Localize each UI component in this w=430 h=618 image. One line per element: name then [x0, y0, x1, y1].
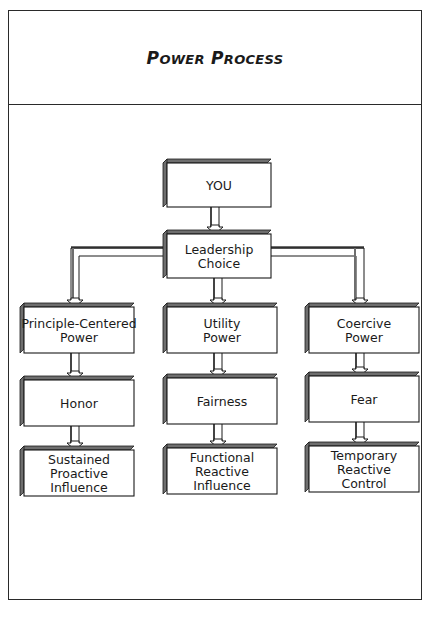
node-principle-label-line: Principle-Centered	[21, 316, 136, 331]
node-functional-label-line: Influence	[193, 478, 251, 493]
node-leadership-label-line: Leadership	[185, 242, 254, 257]
node-leadership: LeadershipChoice	[163, 230, 271, 278]
box-side-face	[305, 303, 309, 353]
box-top-face	[163, 159, 271, 163]
box-side-face	[20, 446, 24, 496]
node-sustained: SustainedProactiveInfluence	[20, 446, 134, 496]
node-leadership-label-line: Choice	[198, 256, 241, 271]
node-functional-label-line: Functional	[190, 450, 254, 465]
node-sustained-label-line: Influence	[50, 480, 108, 495]
box-top-face	[20, 376, 134, 380]
node-principle-label-line: Power	[60, 330, 99, 345]
node-utility-label-line: Power	[203, 330, 242, 345]
node-temporary-label-line: Control	[341, 476, 386, 491]
box-side-face	[163, 230, 167, 278]
box-top-face	[163, 374, 277, 378]
node-honor: Honor	[20, 376, 134, 426]
node-honor-label-line: Honor	[60, 396, 99, 411]
box-top-face	[20, 303, 134, 307]
box-top-face	[305, 303, 419, 307]
box-top-face	[163, 230, 271, 234]
node-you-label-line: YOU	[205, 178, 232, 193]
box-side-face	[163, 444, 167, 494]
node-sustained-label-line: Proactive	[50, 466, 108, 481]
box-side-face	[163, 303, 167, 353]
node-functional-label-line: Reactive	[195, 464, 249, 479]
box-side-face	[305, 442, 309, 492]
node-coercive-label-line: Power	[345, 330, 384, 345]
box-side-face	[305, 372, 309, 422]
node-temporary-label-line: Temporary	[330, 448, 398, 463]
edge-leadership-to-principle	[67, 246, 163, 307]
box-side-face	[163, 374, 167, 424]
node-you: YOU	[163, 159, 271, 207]
node-fear: Fear	[305, 372, 419, 422]
box-top-face	[20, 446, 134, 450]
box-side-face	[163, 159, 167, 207]
node-fairness-label-line: Fairness	[197, 394, 248, 409]
node-functional: FunctionalReactiveInfluence	[163, 444, 277, 494]
node-utility: UtilityPower	[163, 303, 277, 353]
box-top-face	[163, 303, 277, 307]
box-side-face	[20, 376, 24, 426]
node-temporary-label-line: Reactive	[337, 462, 391, 477]
box-top-face	[305, 372, 419, 376]
node-fairness: Fairness	[163, 374, 277, 424]
node-principle: Principle-CenteredPower	[20, 303, 137, 353]
edge-leadership-to-coercive	[267, 246, 368, 307]
box-top-face	[305, 442, 419, 446]
box-top-face	[163, 444, 277, 448]
node-utility-label-line: Utility	[204, 316, 241, 331]
flowchart: YOULeadershipChoicePrinciple-CenteredPow…	[0, 0, 430, 618]
node-coercive: CoercivePower	[305, 303, 419, 353]
node-temporary: TemporaryReactiveControl	[305, 442, 419, 492]
node-coercive-label-line: Coercive	[337, 316, 392, 331]
node-fear-label-line: Fear	[351, 392, 379, 407]
node-sustained-label-line: Sustained	[48, 452, 110, 467]
